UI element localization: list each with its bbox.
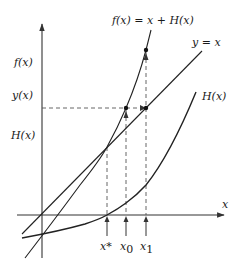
x-axis-label: x	[222, 198, 229, 211]
diagram-canvas: f(x) = x + H(x) y = x H(x) f(x) y(x) H(x…	[0, 0, 238, 272]
x1-label: x1	[140, 240, 153, 256]
h-curve	[22, 92, 196, 238]
f-curve	[25, 30, 151, 258]
x1-pointer-head	[144, 216, 149, 222]
x-star-label: x*	[100, 240, 112, 253]
y-label-f: f(x)	[13, 56, 33, 69]
h-curve-label: H(x)	[201, 90, 226, 103]
identity-line	[22, 51, 202, 234]
x0-label: x0	[120, 240, 133, 256]
y-label-h: H(x)	[10, 129, 35, 142]
f-curve-label: f(x) = x + H(x)	[111, 14, 194, 27]
x0-pointer-head	[124, 216, 129, 222]
identity-line-label: y = x	[191, 36, 221, 49]
y-label-y: y(x)	[11, 89, 33, 102]
x-star-pointer-head	[105, 216, 110, 222]
point-f-x1	[144, 48, 148, 52]
point-identity-x1	[144, 106, 148, 110]
point-f-x0	[124, 106, 128, 110]
